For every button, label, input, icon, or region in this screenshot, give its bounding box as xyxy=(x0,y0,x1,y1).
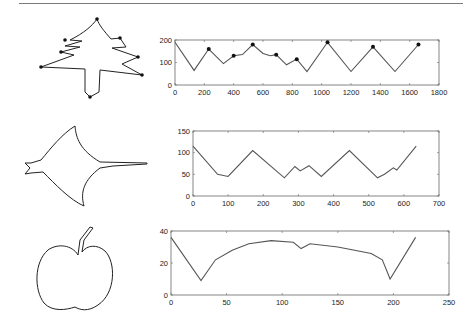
tree-silhouette-icon xyxy=(39,17,144,99)
y-tick-label: 0 xyxy=(186,192,190,201)
data-marker xyxy=(232,54,236,58)
y-tick-label: 20 xyxy=(160,259,168,268)
x-tick-label: 600 xyxy=(257,88,270,97)
x-tick-label: 200 xyxy=(387,298,400,307)
apple-silhouette-icon xyxy=(37,227,113,310)
data-line xyxy=(171,237,416,280)
data-marker xyxy=(274,53,278,57)
data-marker xyxy=(371,45,375,49)
y-tick-label: 100 xyxy=(177,148,190,157)
x-tick-label: 0 xyxy=(173,88,177,97)
x-tick-label: 250 xyxy=(443,298,456,307)
data-line xyxy=(175,42,419,71)
x-tick-label: 1200 xyxy=(343,88,360,97)
y-tick-label: 50 xyxy=(182,170,190,179)
x-tick-label: 800 xyxy=(286,88,299,97)
x-tick-label: 100 xyxy=(276,298,289,307)
x-tick-label: 0 xyxy=(191,199,195,208)
x-tick-label: 300 xyxy=(292,199,305,208)
plot-3: 05010015020025002040 xyxy=(160,227,456,308)
data-line xyxy=(193,146,416,178)
y-tick-label: 0 xyxy=(168,81,172,90)
x-tick-label: 1400 xyxy=(372,88,389,97)
x-tick-label: 100 xyxy=(222,199,235,208)
x-tick-label: 700 xyxy=(433,199,446,208)
x-tick-label: 400 xyxy=(327,199,340,208)
x-tick-label: 500 xyxy=(362,199,375,208)
y-tick-label: 0 xyxy=(164,291,168,300)
plot-1: 0200400600800100012001400160018000100200 xyxy=(159,36,447,98)
x-tick-label: 0 xyxy=(169,298,173,307)
x-tick-label: 200 xyxy=(257,199,270,208)
y-tick-label: 100 xyxy=(159,58,172,67)
y-tick-label: 200 xyxy=(159,36,172,45)
x-tick-label: 1800 xyxy=(431,88,448,97)
y-tick-label: 40 xyxy=(160,227,168,236)
manta-ray-silhouette-icon xyxy=(25,126,147,206)
x-tick-label: 400 xyxy=(227,88,240,97)
data-marker xyxy=(326,40,330,44)
plot-2: 0100200300400500600700050100150 xyxy=(177,127,445,209)
axes-box xyxy=(175,40,439,85)
x-tick-label: 200 xyxy=(198,88,211,97)
data-marker xyxy=(295,57,299,61)
figure-canvas: 0200400600800100012001400160018000100200… xyxy=(0,0,476,328)
data-marker xyxy=(416,43,420,47)
x-tick-label: 150 xyxy=(332,298,345,307)
x-tick-label: 600 xyxy=(398,199,411,208)
x-tick-label: 1000 xyxy=(313,88,330,97)
x-tick-label: 1600 xyxy=(401,88,418,97)
data-marker xyxy=(207,47,211,51)
x-tick-label: 50 xyxy=(222,298,230,307)
data-marker xyxy=(251,43,255,47)
y-tick-label: 150 xyxy=(177,127,190,136)
